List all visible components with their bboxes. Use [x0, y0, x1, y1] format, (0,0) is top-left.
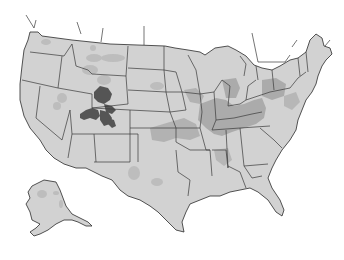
us-map-svg: [0, 0, 344, 260]
us-map: [0, 0, 344, 260]
alaska-shape: [26, 180, 92, 236]
